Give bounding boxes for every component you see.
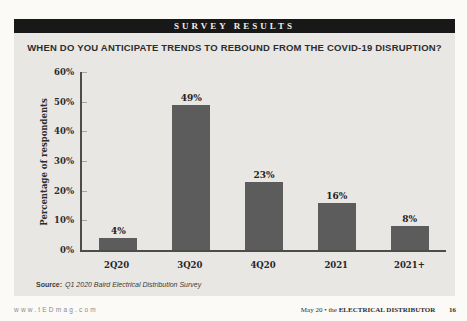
y-tick-label: 10% [54,215,74,225]
source-note: Source:Q1 2020 Baird Electrical Distribu… [36,281,201,288]
bar-value-label: 23% [253,170,274,180]
bar-value-label: 4% [111,226,126,236]
y-tick-label: 0% [60,245,74,255]
x-tick-label: 3Q20 [153,260,226,270]
bar-rect [172,105,210,250]
source-label: Source: [36,281,62,288]
x-tick-label: 2021+ [373,260,446,270]
bar-rect [318,203,356,250]
x-axis-labels: 2Q203Q204Q2020212021+ [80,260,446,270]
bar-rect [391,226,429,250]
footer-website: www.tEDmag.com [14,306,98,313]
y-axis-title: Percentage of respondents [39,98,49,226]
magazine-page: SURVEY RESULTS WHEN DO YOU ANTICIPATE TR… [0,0,467,321]
y-tick-mark [82,102,87,103]
y-tick-label: 60% [54,67,74,77]
bar-value-label: 8% [402,214,417,224]
bar-2q20: 4% [82,72,155,250]
x-tick-label: 2Q20 [80,260,153,270]
footer-issue-info: May 20 • the ELECTRICAL DISTRIBUTOR 16 [301,306,456,314]
source-text: Q1 2020 Baird Electrical Distribution Su… [65,281,201,288]
y-tick-label: 30% [54,156,74,166]
chart-title: WHEN DO YOU ANTICIPATE TRENDS TO REBOUND… [14,42,455,53]
chart-card: WHEN DO YOU ANTICIPATE TRENDS TO REBOUND… [14,33,455,296]
x-tick-label: 2021 [300,260,373,270]
bar-rect [99,238,137,250]
y-tick-mark [82,191,87,192]
y-tick-label: 50% [54,97,74,107]
y-tick-mark [82,220,87,221]
bar-2021: 16% [300,72,373,250]
bar-rect [245,182,283,250]
bar-value-label: 16% [326,191,347,201]
y-tick-label: 40% [54,126,74,136]
bar-3q20: 49% [155,72,228,250]
bar-series: 4%49%23%16%8% [82,72,446,250]
bar-chart-plot-area: 4%49%23%16%8% 0%10%20%30%40%50%60% [80,72,446,252]
bar-value-label: 49% [181,93,202,103]
footer-magazine-name: ELECTRICAL DISTRIBUTOR [339,306,436,314]
y-tick-mark [82,131,87,132]
banner-label: SURVEY RESULTS [174,21,295,31]
bar-2021plus: 8% [373,72,446,250]
footer-page-number: 16 [449,306,456,314]
y-tick-mark [82,161,87,162]
y-tick-mark [82,72,87,73]
survey-results-banner: SURVEY RESULTS [14,19,455,33]
page-footer: www.tEDmag.com May 20 • the ELECTRICAL D… [14,306,456,314]
x-tick-label: 4Q20 [226,260,299,270]
y-tick-label: 20% [54,186,74,196]
footer-issue: May 20 • the [301,306,337,314]
bar-4q20: 23% [228,72,301,250]
